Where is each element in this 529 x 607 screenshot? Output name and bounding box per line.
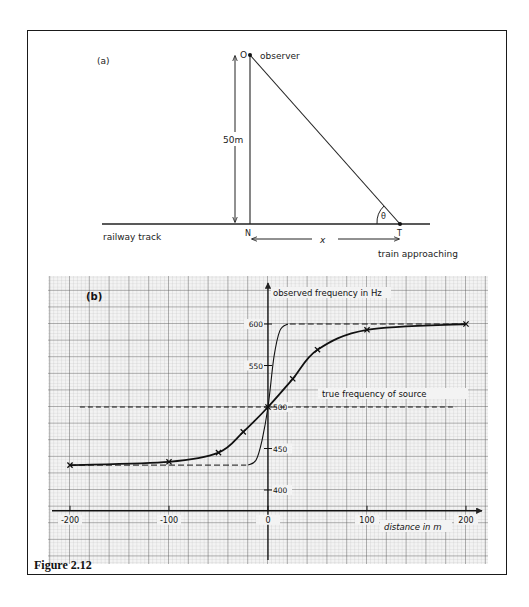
angle-label: θ [381,212,386,221]
train-approaching-label: train approaching [378,249,458,259]
y-tick-label: 450 [273,445,288,454]
observer-point [248,53,252,57]
x-tick-label: 0 [265,516,270,525]
observer-label: observer [260,51,300,61]
true-frequency-label: true frequency of source [322,389,427,399]
y-tick-label: 400 [273,486,288,495]
y-tick-label: 550 [249,362,264,371]
distance-label: x [319,235,326,245]
railway-track-label: railway track [103,232,162,242]
x-tick-label: 200 [458,516,473,525]
x-tick-label: -200 [61,516,79,525]
train-point [398,222,402,226]
point-O-label: O [240,50,247,60]
y-tick-label: 600 [249,320,264,329]
x-tick-label: 100 [359,516,374,525]
part-b-label: (b) [86,291,102,302]
diagram-a: (a) 50m O observer railway track N T θ x… [97,50,458,259]
height-label: 50m [223,135,243,145]
chart-b: (b) -200-1000100200400450500550600observ… [48,276,488,564]
x-tick-label: -100 [160,516,178,525]
line-OT [250,55,400,224]
part-a-label: (a) [97,56,110,66]
point-N-label: N [245,229,251,238]
figure-caption: Figure 2.12 [34,558,92,573]
y-axis-label: observed frequency in Hz [273,288,382,298]
x-axis-label: distance in m [384,522,441,532]
figure-canvas: (a) 50m O observer railway track N T θ x… [0,0,529,607]
point-T-label: T [396,229,402,238]
